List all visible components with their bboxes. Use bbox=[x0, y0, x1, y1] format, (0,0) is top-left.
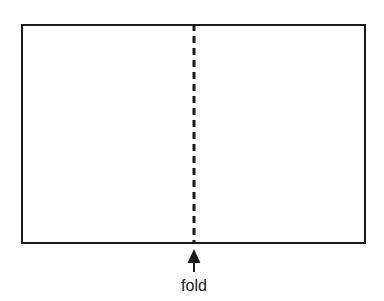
diagram-canvas: fold bbox=[0, 0, 384, 301]
fold-label: fold bbox=[181, 277, 207, 294]
fold-diagram: fold bbox=[0, 0, 384, 301]
